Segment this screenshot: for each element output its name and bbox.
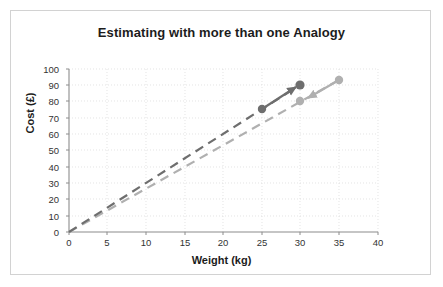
chart-frame: Estimating with more than one Analogy	[10, 10, 431, 275]
y-tick-label: 60	[33, 129, 59, 140]
data-point-dark-25-75	[258, 105, 266, 113]
y-tick-label: 90	[33, 80, 59, 91]
grid-lines	[69, 69, 378, 232]
x-tick-label: 5	[94, 237, 120, 248]
x-tick-label: 10	[133, 237, 159, 248]
y-tick-label: 100	[33, 64, 59, 75]
data-point-light-30-80	[296, 97, 304, 105]
y-tick-label: 30	[33, 178, 59, 189]
x-axis-title: Weight (kg)	[11, 254, 432, 266]
data-point-light-35-93	[335, 76, 343, 84]
axis-ticks	[66, 69, 378, 235]
y-axis-title: Cost (£)	[24, 68, 36, 158]
adjustment-arrow-light	[308, 80, 339, 98]
y-tick-label: 40	[33, 162, 59, 173]
x-tick-label: 30	[287, 237, 313, 248]
adjustment-arrow-dark	[262, 87, 296, 109]
axis-lines	[69, 69, 378, 232]
x-tick-label: 20	[210, 237, 236, 248]
y-tick-label: 70	[33, 113, 59, 124]
data-point-dark-30-90	[295, 80, 304, 89]
x-tick-label: 35	[326, 237, 352, 248]
x-tick-label: 0	[56, 237, 82, 248]
x-tick-label: 15	[172, 237, 198, 248]
y-tick-label: 80	[33, 96, 59, 107]
y-tick-label: 20	[33, 194, 59, 205]
y-tick-label: 10	[33, 211, 59, 222]
x-tick-label: 25	[249, 237, 275, 248]
x-tick-label: 40	[365, 237, 391, 248]
series-analogy-2-light	[69, 76, 343, 232]
y-tick-label: 50	[33, 145, 59, 156]
series-analogy-1-dark	[69, 80, 305, 232]
